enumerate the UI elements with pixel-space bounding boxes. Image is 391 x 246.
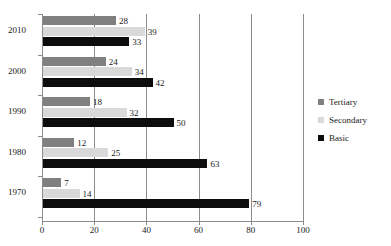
bar-secondary-1970 (43, 189, 80, 198)
legend-swatch-icon (318, 117, 324, 123)
legend-item-tertiary[interactable]: Tertiary (318, 93, 388, 111)
legend-swatch-icon (318, 99, 324, 105)
legend-item-label: Basic (329, 134, 349, 143)
category-label-1990: 1990 (8, 107, 38, 116)
y-axis-tick (38, 55, 42, 56)
bar-basic-1980 (43, 159, 207, 168)
bar-secondary-1990 (43, 108, 127, 117)
bar-value-label: 7 (64, 179, 69, 188)
y-axis-tick (38, 176, 42, 177)
bar-value-label: 25 (111, 149, 120, 158)
legend-item-label: Secondary (329, 116, 367, 125)
category-label-2010: 2010 (8, 26, 38, 35)
gridline (199, 14, 200, 221)
bar-value-label: 28 (119, 17, 128, 26)
x-axis-line (42, 221, 304, 222)
category-label-1970: 1970 (8, 188, 38, 197)
bar-value-label: 42 (156, 79, 165, 88)
gridline (251, 14, 252, 221)
bar-tertiary-1980 (43, 138, 74, 147)
bar-value-label: 18 (93, 98, 102, 107)
bar-value-label: 32 (130, 109, 139, 118)
y-axis-tick (38, 14, 42, 15)
gridline (303, 14, 304, 221)
plot-area: 28393324344218325012256371479 (42, 14, 303, 221)
bar-value-label: 63 (210, 160, 219, 169)
x-axis-tick-label: 80 (236, 226, 266, 235)
legend-item-secondary[interactable]: Secondary (318, 111, 388, 129)
category-label-1980: 1980 (8, 148, 38, 157)
y-axis-tick (38, 217, 42, 218)
x-axis-tick-label: 100 (288, 226, 318, 235)
bar-secondary-2000 (43, 67, 132, 76)
bar-basic-1970 (43, 199, 249, 208)
bar-value-label: 34 (135, 68, 144, 77)
bar-value-label: 50 (177, 119, 186, 128)
x-axis-tick-label: 60 (184, 226, 214, 235)
bar-chart: 28393324344218325012256371479 0204060801… (0, 0, 391, 246)
x-axis-tick-label: 0 (27, 226, 57, 235)
legend: Tertiary Secondary Basic (318, 93, 388, 147)
bar-value-label: 24 (109, 58, 118, 67)
bar-value-label: 14 (83, 190, 92, 199)
y-axis-tick (38, 136, 42, 137)
bar-basic-2010 (43, 37, 129, 46)
bar-secondary-2010 (43, 27, 145, 36)
bar-tertiary-1990 (43, 97, 90, 106)
category-label-2000: 2000 (8, 67, 38, 76)
bar-value-label: 39 (148, 28, 157, 37)
bar-secondary-1980 (43, 148, 108, 157)
bar-tertiary-2010 (43, 16, 116, 25)
bar-tertiary-1970 (43, 178, 61, 187)
bar-basic-2000 (43, 78, 153, 87)
legend-item-basic[interactable]: Basic (318, 129, 388, 147)
bar-value-label: 12 (77, 139, 86, 148)
bar-value-label: 33 (132, 38, 141, 47)
x-axis-tick-label: 40 (131, 226, 161, 235)
x-axis-tick-label: 20 (79, 226, 109, 235)
bar-tertiary-2000 (43, 57, 106, 66)
y-axis-tick (38, 95, 42, 96)
bar-value-label: 79 (252, 200, 261, 209)
legend-item-label: Tertiary (329, 98, 357, 107)
legend-swatch-icon (318, 135, 324, 141)
bar-basic-1990 (43, 118, 174, 127)
